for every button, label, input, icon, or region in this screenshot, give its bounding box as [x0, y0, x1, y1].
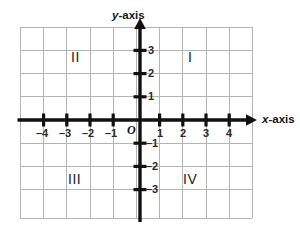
quadrant-label-ii: II	[71, 50, 80, 64]
x-tick-label-neg3: –3	[59, 128, 71, 139]
x-tick-label-4: 4	[226, 128, 232, 139]
quadrant-label-iii: III	[68, 172, 81, 186]
x-axis-title-suffix: -axis	[268, 113, 294, 125]
x-axis-title: x-axis	[262, 114, 295, 126]
x-tick-label-2: 2	[180, 128, 186, 139]
x-tick-label-3: 3	[203, 128, 209, 139]
y-tick-label-3: 3	[148, 45, 154, 56]
origin-label: O	[127, 124, 136, 136]
y-tick-label-neg1: –1	[146, 138, 158, 149]
y-tick-label-neg2: –2	[146, 161, 158, 172]
y-tick-label-neg3: –3	[146, 184, 158, 195]
y-axis-title-suffix: -axis	[118, 9, 144, 21]
y-tick-label-1: 1	[148, 91, 154, 102]
quadrant-label-iv: IV	[183, 172, 197, 186]
x-tick-label-neg4: –4	[36, 128, 48, 139]
x-tick-label-neg1: –1	[105, 128, 117, 139]
y-tick-label-2: 2	[148, 68, 154, 79]
quadrant-label-i: I	[188, 50, 192, 64]
coordinate-plane-graphic	[0, 0, 300, 232]
y-axis-title: y-axis	[112, 10, 145, 22]
coordinate-plane-figure: y-axis x-axis O –4 –3 –2 –1 1 2 3 4 3 2 …	[0, 0, 300, 232]
x-tick-label-neg2: –2	[82, 128, 94, 139]
